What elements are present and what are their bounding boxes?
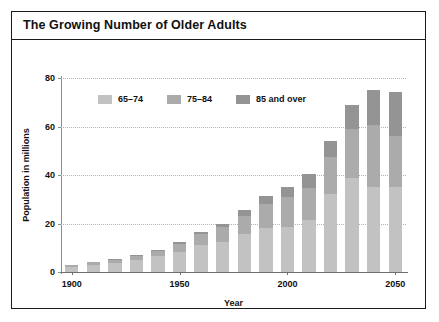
bar-segment-2010-series-0 (302, 220, 315, 272)
bar-2010[interactable] (302, 174, 315, 272)
bar-segment-2030-series-1 (345, 129, 358, 178)
legend-item-0[interactable]: 65–74 (98, 94, 143, 104)
bar-segment-2030-series-2 (345, 105, 358, 128)
legend-label-2: 85 and over (256, 94, 306, 104)
bar-segment-1910-series-0 (87, 265, 100, 272)
bar-segment-2040-series-2 (367, 90, 380, 124)
bar-1920[interactable] (108, 259, 121, 272)
bar-1950[interactable] (173, 242, 186, 272)
y-tick-label-60: 60 (45, 122, 55, 132)
bar-2040[interactable] (367, 90, 380, 272)
bar-segment-2000-series-1 (281, 197, 294, 227)
legend-label-0: 65–74 (118, 94, 143, 104)
y-tick-mark-0 (58, 272, 61, 273)
y-tick-label-40: 40 (45, 170, 55, 180)
x-tick-label-2000: 2000 (277, 279, 297, 289)
bar-segment-2000-series-0 (281, 227, 294, 272)
bar-segment-1960-series-1 (194, 234, 207, 245)
y-tick-label-0: 0 (50, 267, 55, 277)
bar-segment-2050-series-0 (389, 187, 402, 272)
bar-segment-1970-series-0 (216, 242, 229, 272)
bar-segment-1960-series-0 (194, 245, 207, 272)
bar-2050[interactable] (389, 92, 402, 272)
chart-title-bar: The Growing Number of Older Adults (12, 12, 425, 40)
bar-segment-1950-series-0 (173, 252, 186, 272)
x-tick-mark-1950 (180, 272, 181, 275)
bar-segment-2050-series-2 (389, 92, 402, 136)
bar-2030[interactable] (345, 105, 358, 272)
bar-segment-1980-series-1 (238, 216, 251, 235)
y-axis-label: Population in millions (21, 128, 31, 222)
bar-1940[interactable] (151, 250, 164, 272)
chart-title: The Growing Number of Older Adults (23, 18, 247, 32)
bar-1980[interactable] (238, 210, 251, 272)
bar-series-group (61, 78, 406, 272)
x-tick-mark-1900 (72, 272, 73, 275)
bar-segment-2020-series-2 (324, 141, 337, 157)
bar-segment-2050-series-1 (389, 136, 402, 187)
chart-card: The Growing Number of Older Adults Popul… (11, 11, 426, 309)
bar-segment-2040-series-1 (367, 125, 380, 187)
bar-segment-1950-series-1 (173, 244, 186, 252)
bar-2020[interactable] (324, 141, 337, 272)
x-tick-mark-2050 (395, 272, 396, 275)
chart-plot-area: Population in millions 020406080 1900195… (12, 40, 425, 309)
bar-segment-1930-series-0 (130, 260, 143, 272)
bar-segment-1920-series-0 (108, 263, 121, 272)
bar-segment-2010-series-1 (302, 188, 315, 220)
bar-1930[interactable] (130, 255, 143, 272)
bar-segment-2020-series-0 (324, 194, 337, 272)
x-axis-label: Year (61, 298, 406, 308)
bar-segment-1990-series-2 (259, 196, 272, 203)
x-tick-label-1950: 1950 (170, 279, 190, 289)
legend-swatch-0 (98, 95, 112, 104)
x-axis-line (61, 272, 408, 273)
y-tick-label-20: 20 (45, 219, 55, 229)
bar-segment-2040-series-0 (367, 187, 380, 272)
x-tick-label-2050: 2050 (385, 279, 405, 289)
legend-label-1: 75–84 (187, 94, 212, 104)
x-tick-label-1900: 1900 (62, 279, 82, 289)
legend-swatch-2 (236, 95, 250, 104)
bar-segment-1990-series-1 (259, 204, 272, 228)
bar-1960[interactable] (194, 232, 207, 272)
legend-swatch-1 (167, 95, 181, 104)
x-tick-mark-2000 (287, 272, 288, 275)
bar-1900[interactable] (65, 265, 78, 273)
chart-legend: 65–7475–8485 and over (98, 94, 330, 104)
bar-segment-1990-series-0 (259, 228, 272, 272)
bar-1970[interactable] (216, 224, 229, 272)
legend-item-2[interactable]: 85 and over (236, 94, 306, 104)
bar-2000[interactable] (281, 187, 294, 272)
bar-segment-1970-series-1 (216, 227, 229, 242)
bar-segment-2030-series-0 (345, 178, 358, 272)
legend-item-1[interactable]: 75–84 (167, 94, 212, 104)
bar-segment-1980-series-0 (238, 234, 251, 272)
bar-segment-2010-series-2 (302, 174, 315, 188)
y-tick-label-80: 80 (45, 73, 55, 83)
bar-1990[interactable] (259, 196, 272, 272)
bar-segment-2020-series-1 (324, 157, 337, 194)
bar-segment-2000-series-2 (281, 187, 294, 197)
plot-canvas: 020406080 1900195020002050 (61, 78, 406, 272)
bar-segment-1940-series-0 (151, 256, 164, 272)
bar-1910[interactable] (87, 262, 100, 272)
